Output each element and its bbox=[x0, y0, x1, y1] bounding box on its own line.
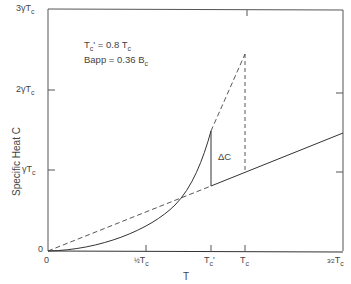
y-label-1: γTc bbox=[22, 165, 36, 176]
y-label-0: 0 bbox=[38, 245, 43, 254]
x-axis bbox=[48, 251, 343, 252]
y-label-3: 3γTc bbox=[16, 4, 35, 15]
normal-line-dashed bbox=[48, 186, 211, 251]
annotation-delta-c: ΔC bbox=[218, 151, 231, 162]
sc-curve-dashed bbox=[211, 54, 245, 131]
annotation-tc-prime: Tc' = 0.8 Tc bbox=[84, 39, 131, 52]
top-axis bbox=[48, 9, 343, 10]
x-label-tc: Tc bbox=[240, 256, 249, 267]
sc-curve-solid bbox=[48, 131, 211, 251]
x-label-3half: 3⁄2Tc bbox=[327, 256, 344, 267]
y-axis-title: Specific Heat C bbox=[11, 127, 22, 196]
plot-area bbox=[0, 0, 351, 284]
y-label-2: 2γTc bbox=[16, 85, 35, 96]
x-axis-title: T bbox=[183, 272, 189, 282]
x-label-0: 0 bbox=[44, 256, 49, 265]
x-label-half: ½Tc bbox=[134, 256, 149, 267]
x-label-tc-prime: Tc' bbox=[204, 256, 215, 267]
annotation-bapp: Bapp = 0.36 Bc bbox=[84, 54, 148, 67]
